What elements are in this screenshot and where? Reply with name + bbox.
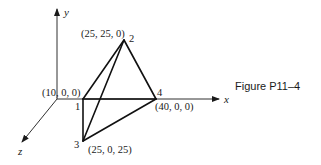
z-axis-label: z xyxy=(17,145,23,157)
node-3-coord: (25, 0, 25) xyxy=(88,144,132,156)
z-axis xyxy=(22,99,57,142)
node-3-number: 3 xyxy=(74,139,79,150)
node-4-coord: (40, 0, 0) xyxy=(155,101,194,113)
truss-members xyxy=(83,40,156,141)
member-3-4 xyxy=(83,99,156,141)
figure-caption: Figure P11–4 xyxy=(235,80,300,92)
node-1-coord: (10, 0, 0) xyxy=(42,87,81,99)
node-2-coord: (25, 25, 0) xyxy=(81,28,125,40)
y-axis-label: y xyxy=(63,6,69,18)
node-4-number: 4 xyxy=(157,87,163,98)
node-1-number: 1 xyxy=(75,101,80,112)
node-labels: (10, 0, 0) 1 (25, 25, 0) 2 3 (25, 0, 25)… xyxy=(42,28,194,156)
truss-diagram: y x z (10, 0, 0) 1 (25, 25, 0) 2 3 (25, … xyxy=(0,0,321,165)
x-axis-label: x xyxy=(223,93,229,105)
node-2-number: 2 xyxy=(129,33,134,44)
member-2-4 xyxy=(124,40,156,99)
